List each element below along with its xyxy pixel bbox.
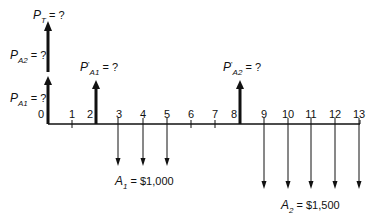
label-pa1: PA1 = ? — [10, 89, 46, 105]
period-label-5: 5 — [164, 109, 170, 120]
period-label-9: 9 — [261, 109, 267, 120]
pa1-prime-arrow-icon — [92, 80, 100, 124]
label-pt: PT = ? — [33, 6, 65, 22]
period-label-7: 7 — [212, 109, 218, 120]
period-label-3: 3 — [116, 109, 122, 120]
period-label-6: 6 — [188, 109, 194, 120]
pa2-prime-arrow-icon — [236, 80, 244, 124]
period-label-12: 12 — [329, 109, 341, 120]
label-a2: A2 = $1,500 — [281, 196, 340, 212]
a2-arrows-icon — [262, 118, 362, 189]
period-label-0: 0 — [38, 109, 44, 120]
period-label-8: 8 — [231, 109, 237, 120]
period-label-2: 2 — [87, 109, 93, 120]
label-pa1-prime: P'A1 = ? — [80, 58, 118, 74]
label-pa2: PA2 = ? — [10, 46, 46, 62]
period-label-13: 13 — [353, 109, 365, 120]
cash-flow-diagram: 0 1 2 3 4 5 6 7 8 9 10 11 12 13 PT = ? P… — [0, 0, 372, 216]
label-pa2-prime: P'A2 = ? — [223, 58, 261, 74]
period-label-10: 10 — [282, 109, 294, 120]
a1-arrows-icon — [116, 118, 170, 166]
period-label-1: 1 — [69, 109, 75, 120]
label-a1: A1 = $1,000 — [115, 172, 174, 188]
period-label-11: 11 — [305, 109, 316, 120]
period-label-4: 4 — [140, 109, 146, 120]
